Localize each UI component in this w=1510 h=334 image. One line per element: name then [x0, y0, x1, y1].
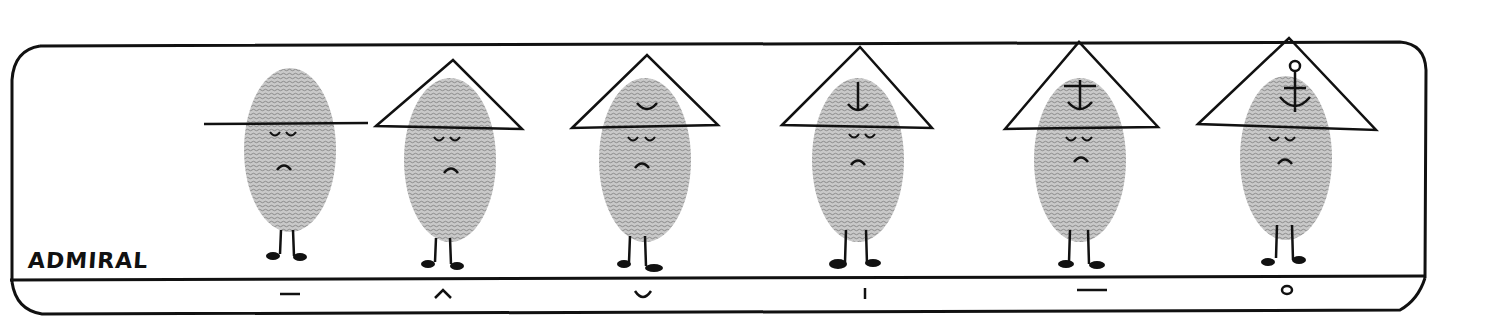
- caption-mark: [635, 291, 651, 297]
- figure-4: [1005, 42, 1158, 290]
- figure-3: [782, 47, 932, 299]
- figure-5: [1198, 38, 1376, 294]
- panel-title: ADMIRAL: [27, 248, 149, 273]
- anchor-icon: [1290, 61, 1300, 71]
- hat-brim-icon: [204, 123, 368, 124]
- figure-2: [572, 55, 718, 297]
- figure-1: [376, 60, 522, 298]
- fingerprint-body: [244, 68, 336, 232]
- figure-0: [204, 68, 368, 294]
- admiral-illustration: [0, 0, 1510, 334]
- panel-frame: [10, 42, 1426, 314]
- caption-mark: [1282, 286, 1292, 294]
- caption-mark: [435, 290, 451, 298]
